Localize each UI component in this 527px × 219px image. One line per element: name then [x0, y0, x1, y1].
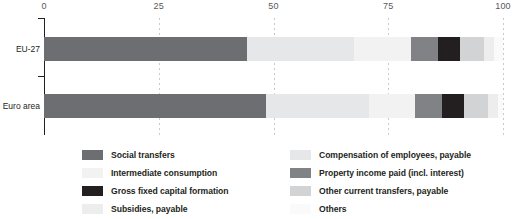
legend-swatch-icon — [290, 204, 311, 214]
bar-segment — [488, 94, 499, 118]
legend-item[interactable]: Property income paid (incl. interest) — [290, 164, 471, 182]
bar-segment — [247, 37, 354, 61]
legend-swatch-icon — [82, 204, 103, 214]
legend-swatch-icon — [82, 168, 103, 178]
bar-segment — [494, 37, 503, 61]
bar-segment — [411, 37, 438, 61]
bar-segment — [464, 94, 488, 118]
legend-swatch-icon — [290, 168, 311, 178]
legend-item-label: Intermediate consumption — [111, 168, 217, 178]
x-tick-label-0: 0 — [41, 1, 46, 11]
legend: Social transfersIntermediate consumption… — [0, 146, 527, 219]
legend-item[interactable]: Other current transfers, payable — [290, 182, 471, 200]
legend-item-label: Property income paid (incl. interest) — [319, 168, 464, 178]
legend-swatch-icon — [82, 150, 103, 160]
legend-column-left: Social transfersIntermediate consumption… — [82, 146, 228, 218]
bar-segment — [266, 94, 369, 118]
legend-item[interactable]: Subsidies, payable — [82, 200, 228, 218]
x-axis-tick-labels: 0255075100 — [0, 0, 527, 18]
bars-layer — [44, 18, 503, 135]
x-tick-label-75: 75 — [383, 1, 393, 11]
category-label-eu-27: EU-27 — [0, 44, 40, 54]
legend-item[interactable]: Gross fixed capital formation — [82, 182, 228, 200]
x-tick-label-100: 100 — [495, 1, 511, 11]
gridline-100 — [503, 18, 504, 135]
legend-item-label: Other current transfers, payable — [319, 186, 448, 196]
bar-segment — [498, 94, 503, 118]
legend-column-right: Compensation of employees, payableProper… — [290, 146, 471, 218]
bar-eu-27 — [44, 37, 503, 61]
bar-segment — [415, 94, 442, 118]
legend-item-label: Compensation of employees, payable — [319, 150, 471, 160]
legend-item-label: Gross fixed capital formation — [111, 186, 228, 196]
legend-item[interactable]: Others — [290, 200, 471, 218]
legend-item[interactable]: Social transfers — [82, 146, 228, 164]
bar-segment — [442, 94, 464, 118]
legend-item[interactable]: Compensation of employees, payable — [290, 146, 471, 164]
bar-segment — [44, 37, 247, 61]
x-tick-label-50: 50 — [268, 1, 278, 11]
bar-euro-area — [44, 94, 503, 118]
bar-segment — [484, 37, 494, 61]
bar-segment — [354, 37, 411, 61]
legend-swatch-icon — [290, 150, 311, 160]
legend-item-label: Subsidies, payable — [111, 204, 187, 214]
legend-swatch-icon — [290, 186, 311, 196]
legend-item-label: Social transfers — [111, 150, 175, 160]
legend-item[interactable]: Intermediate consumption — [82, 164, 228, 182]
bar-segment — [44, 94, 266, 118]
bar-segment — [460, 37, 484, 61]
bar-segment — [369, 94, 415, 118]
legend-swatch-icon — [82, 186, 103, 196]
bar-segment — [438, 37, 460, 61]
category-label-euro-area: Euro area — [0, 101, 40, 111]
x-tick-label-25: 25 — [154, 1, 164, 11]
legend-item-label: Others — [319, 204, 346, 214]
stacked-bar-chart: 0255075100 EU-27 Euro area Social transf… — [0, 0, 527, 219]
